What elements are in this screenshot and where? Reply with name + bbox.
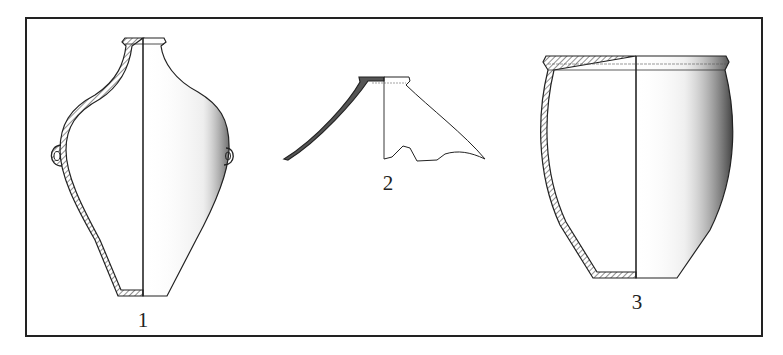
- vessel-3-drawing: [541, 56, 733, 278]
- vessel-1-drawing: [51, 38, 233, 296]
- vessel-1-exterior: [143, 38, 229, 296]
- vessel-3-exterior: [636, 56, 733, 278]
- vessel-2-exterior: [384, 77, 485, 161]
- vessel-1-label: 1: [138, 310, 149, 331]
- vessel-2-label: 2: [383, 173, 394, 194]
- vessel-2-section: [284, 77, 384, 160]
- vessel-2-drawing: [284, 77, 485, 161]
- vessel-3-section: [541, 56, 636, 278]
- vessel-3-label: 3: [632, 292, 643, 313]
- vessel-1-section: [60, 38, 143, 296]
